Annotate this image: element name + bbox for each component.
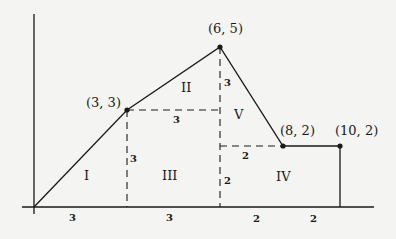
diagram-canvas: (3, 3) (6, 5) (8, 2) (10, 2) I II III IV… [0,0,396,239]
point-3-3 [124,107,129,112]
region-label-V: V [233,107,244,122]
dim-vertical-3-x3: 3 [130,153,137,164]
label-point-3-3: (3, 3) [86,95,121,110]
dim-horizontal-2: 2 [242,150,249,161]
dim-horizontal-3: 3 [173,114,180,125]
dashed-lines [127,47,283,207]
dim-vertical-3-x6: 3 [224,77,231,88]
dim-vertical-2-x6: 2 [224,175,231,186]
region-label-II: II [181,80,191,95]
axis-seg-label-2: 3 [166,212,173,223]
point-10-2 [337,143,342,148]
label-point-6-5: (6, 5) [208,21,243,36]
point-8-2 [280,143,285,148]
axis-seg-label-3: 2 [253,213,260,224]
region-label-I: I [84,168,89,183]
point-6-5 [217,44,222,49]
label-point-8-2: (8, 2) [280,123,315,138]
region-label-IV: IV [276,169,291,184]
axis-seg-label-4: 2 [310,213,317,224]
axis-seg-label-1: 3 [69,212,76,223]
region-label-III: III [162,168,177,183]
label-point-10-2: (10, 2) [335,123,378,138]
